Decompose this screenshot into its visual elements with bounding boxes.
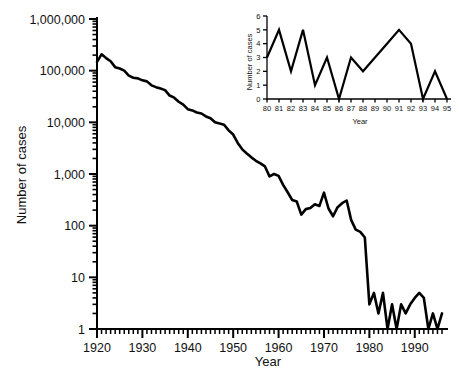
main-x-tick-label: 1930 bbox=[128, 341, 156, 355]
main-x-tick-label: 1960 bbox=[265, 341, 293, 355]
main-data-line bbox=[97, 54, 442, 329]
main-x-tick-label: 1980 bbox=[355, 341, 383, 355]
inset-x-tick-label: 81 bbox=[275, 104, 283, 113]
inset-x-tick-label: 87 bbox=[347, 104, 355, 113]
main-y-tick-label: 100,000 bbox=[40, 64, 85, 78]
inset-y-tick-labels: 0123456 bbox=[256, 12, 260, 104]
main-plot: 1101001,00010,000100,0001,000,000 192019… bbox=[14, 13, 448, 370]
inset-x-tick-label: 83 bbox=[299, 104, 307, 113]
inset-x-tick-label: 95 bbox=[443, 104, 451, 113]
inset-x-axis-label: Year bbox=[352, 117, 368, 126]
main-y-tick-label: 1,000,000 bbox=[29, 13, 85, 27]
inset-x-tick-label: 92 bbox=[407, 104, 415, 113]
main-y-tick-labels: 1101001,00010,000100,0001,000,000 bbox=[29, 13, 85, 337]
inset-x-tick-label: 82 bbox=[287, 104, 295, 113]
inset-x-tick-label: 91 bbox=[395, 104, 403, 113]
inset-x-tick-label: 94 bbox=[431, 104, 439, 113]
inset-y-tick-label: 2 bbox=[256, 67, 260, 76]
main-y-axis: 1101001,00010,000100,0001,000,000 bbox=[29, 13, 97, 337]
main-y-tick-label: 10 bbox=[71, 271, 85, 285]
main-x-axis: 19201930194019501960197019801990 bbox=[83, 329, 448, 355]
main-x-tick-label: 1920 bbox=[83, 341, 111, 355]
inset-y-tick-label: 0 bbox=[256, 95, 260, 104]
inset-y-axis-label: Number of cases bbox=[245, 33, 254, 90]
inset-x-tick-labels: 80818283848586878889909192939495 bbox=[263, 104, 451, 113]
chart-figure: 1101001,00010,000100,0001,000,000 192019… bbox=[0, 0, 459, 373]
inset-y-tick-label: 6 bbox=[256, 12, 260, 21]
inset-x-tick-label: 88 bbox=[359, 104, 367, 113]
inset-x-tick-label: 90 bbox=[383, 104, 391, 113]
inset-x-tick-label: 85 bbox=[323, 104, 331, 113]
main-x-tick-label: 1950 bbox=[219, 341, 247, 355]
main-y-tick-label: 100 bbox=[64, 219, 85, 233]
main-x-tick-label: 1940 bbox=[174, 341, 202, 355]
inset-y-tick-label: 4 bbox=[256, 39, 260, 48]
inset-y-tick-label: 3 bbox=[256, 53, 260, 62]
main-y-axis-label: Number of cases bbox=[14, 125, 29, 224]
figure-canvas: 1101001,00010,000100,0001,000,000 192019… bbox=[0, 0, 459, 373]
inset-data-line bbox=[267, 30, 447, 99]
inset-plot: 0123456 80818283848586878889909192939495… bbox=[245, 12, 451, 126]
main-x-tick-label: 1990 bbox=[401, 341, 429, 355]
main-x-axis-label: Year bbox=[255, 354, 282, 369]
inset-x-tick-label: 80 bbox=[263, 104, 271, 113]
main-x-tick-labels: 19201930194019501960197019801990 bbox=[83, 341, 429, 355]
inset-x-tick-label: 84 bbox=[311, 104, 319, 113]
main-x-tick-label: 1970 bbox=[310, 341, 338, 355]
main-y-tick-label: 1 bbox=[78, 323, 85, 337]
inset-y-tick-label: 1 bbox=[256, 81, 260, 90]
inset-x-tick-label: 86 bbox=[335, 104, 343, 113]
main-y-tick-label: 10,000 bbox=[47, 116, 85, 130]
inset-y-tick-label: 5 bbox=[256, 26, 260, 35]
inset-y-axis: 0123456 bbox=[256, 12, 267, 104]
main-y-tick-label: 1,000 bbox=[54, 168, 85, 182]
inset-x-tick-label: 93 bbox=[419, 104, 427, 113]
inset-x-tick-label: 89 bbox=[371, 104, 379, 113]
